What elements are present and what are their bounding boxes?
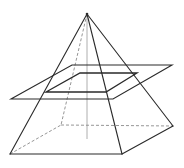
base-edge-back-hidden: [61, 125, 173, 126]
pyramid-section-diagram: [0, 0, 184, 168]
base-edge-right: [122, 126, 173, 154]
cross-section: [46, 73, 137, 92]
lateral-edge-back-right: [87, 14, 173, 126]
lateral-edge-front-right: [87, 14, 122, 154]
lateral-edge-front-left: [10, 14, 87, 154]
apex-point: [86, 13, 89, 16]
